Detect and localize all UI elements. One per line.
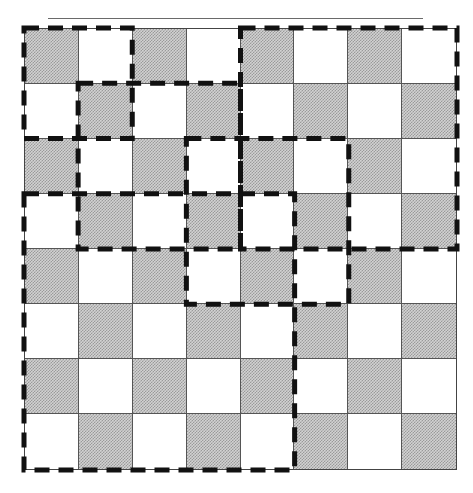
board-cell-r6-c1	[79, 359, 133, 414]
board-cell-r2-c3	[187, 139, 241, 194]
board-cell-r6-c7	[402, 359, 456, 414]
board-cell-r6-c5	[294, 359, 348, 414]
board-cell-r1-c0	[25, 84, 79, 139]
board-cell-r0-c7	[402, 29, 456, 84]
board-cell-r0-c4	[241, 29, 295, 84]
board-cell-r0-c6	[348, 29, 402, 84]
board-cell-r4-c2	[133, 249, 187, 304]
board-cell-r7-c4	[241, 414, 295, 469]
board-cell-r0-c3	[187, 29, 241, 84]
board-cell-r1-c5	[294, 84, 348, 139]
board-cell-r3-c0	[25, 194, 79, 249]
board-cell-r6-c4	[241, 359, 295, 414]
board-cell-r6-c6	[348, 359, 402, 414]
board-cell-r5-c0	[25, 304, 79, 359]
top-rule-line	[48, 18, 423, 19]
board-cell-r2-c1	[79, 139, 133, 194]
board-cell-r1-c7	[402, 84, 456, 139]
board-cell-r4-c1	[79, 249, 133, 304]
board-cell-r7-c0	[25, 414, 79, 469]
board-cell-r7-c2	[133, 414, 187, 469]
board-cell-r7-c3	[187, 414, 241, 469]
board-cell-r7-c6	[348, 414, 402, 469]
board-cell-r5-c6	[348, 304, 402, 359]
board-cell-r4-c5	[294, 249, 348, 304]
board-cell-r6-c3	[187, 359, 241, 414]
board-cell-r4-c3	[187, 249, 241, 304]
board-cell-r3-c7	[402, 194, 456, 249]
board-cell-r1-c6	[348, 84, 402, 139]
board-cell-r5-c3	[187, 304, 241, 359]
board-cell-r2-c4	[241, 139, 295, 194]
board-cell-r6-c2	[133, 359, 187, 414]
board-cell-r7-c7	[402, 414, 456, 469]
board-cell-r3-c5	[294, 194, 348, 249]
board-cell-r0-c0	[25, 29, 79, 84]
board-cell-r1-c4	[241, 84, 295, 139]
board-cell-r5-c5	[294, 304, 348, 359]
board-cell-r3-c4	[241, 194, 295, 249]
board-cell-r7-c5	[294, 414, 348, 469]
board-cell-r3-c6	[348, 194, 402, 249]
board-cell-r3-c2	[133, 194, 187, 249]
board-cell-r5-c4	[241, 304, 295, 359]
board-cell-r7-c1	[79, 414, 133, 469]
board-cell-r3-c1	[79, 194, 133, 249]
board-cell-r4-c6	[348, 249, 402, 304]
board-cell-r2-c2	[133, 139, 187, 194]
board-cell-r1-c1	[79, 84, 133, 139]
board-cell-r3-c3	[187, 194, 241, 249]
board-cell-r1-c2	[133, 84, 187, 139]
board-cell-r4-c0	[25, 249, 79, 304]
board-cell-r0-c1	[79, 29, 133, 84]
board-cell-r0-c2	[133, 29, 187, 84]
board-cell-r5-c7	[402, 304, 456, 359]
board-cell-r2-c7	[402, 139, 456, 194]
board-cell-r2-c5	[294, 139, 348, 194]
board-cell-r1-c3	[187, 84, 241, 139]
board-cell-r6-c0	[25, 359, 79, 414]
board-cell-r4-c7	[402, 249, 456, 304]
board-cell-r2-c0	[25, 139, 79, 194]
board-cell-r0-c5	[294, 29, 348, 84]
board-cell-r5-c2	[133, 304, 187, 359]
board-cell-r4-c4	[241, 249, 295, 304]
board-cell-r5-c1	[79, 304, 133, 359]
board-cell-r2-c6	[348, 139, 402, 194]
checkerboard	[24, 28, 457, 470]
